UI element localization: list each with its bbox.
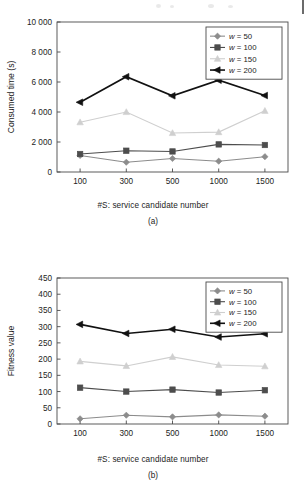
y-axis-tick-label: 2 000 [32, 138, 53, 147]
chart-b-svg: 0501001502002503003504004501003005001000… [0, 258, 306, 454]
data-point-marker [123, 109, 129, 115]
legend-label: w = 150 [229, 308, 257, 317]
y-axis-tick-label: 450 [38, 274, 52, 283]
y-axis-tick-label: 4 000 [32, 108, 53, 117]
chart-a-svg: 02 0004 0006 0008 00010 0001003005001000… [0, 0, 306, 200]
data-point-marker [262, 413, 268, 419]
data-point-marker [170, 149, 175, 154]
data-point-marker [216, 412, 222, 418]
chart-b-x-axis-label: #S: service candidate number [0, 455, 306, 464]
y-axis-label: Consumed time (s) [6, 61, 16, 134]
data-point-marker [169, 326, 176, 333]
y-axis-tick-label: 150 [38, 371, 52, 380]
data-point-marker [122, 330, 129, 337]
data-point-marker [77, 385, 82, 390]
figure-b: 0501001502002503003504004501003005001000… [0, 258, 306, 504]
x-axis-tick-label: 100 [73, 429, 87, 438]
y-axis-tick-label: 200 [38, 355, 52, 364]
chart-a-x-axis-label: #S: service candidate number [0, 201, 306, 210]
data-point-marker [169, 354, 175, 360]
y-axis-tick-label: 8 000 [32, 48, 53, 57]
data-point-marker [123, 412, 129, 418]
data-point-marker [262, 108, 268, 114]
x-axis-tick-label: 100 [73, 177, 87, 186]
data-point-marker [76, 321, 83, 328]
data-point-marker [124, 148, 129, 153]
y-axis-tick-label: 250 [38, 339, 52, 348]
data-point-marker [76, 99, 83, 106]
data-point-marker [262, 388, 267, 393]
legend-label: w = 50 [229, 287, 253, 296]
chart-a-plot-area: 02 0004 0006 0008 00010 0001003005001000… [0, 0, 306, 200]
y-axis-tick-label: 300 [38, 323, 52, 332]
y-axis-tick-label: 0 [47, 420, 52, 429]
figure-b-caption: (b) [0, 471, 306, 480]
y-axis-tick-label: 50 [43, 404, 53, 413]
x-axis-tick-label: 500 [166, 177, 180, 186]
data-point-marker [215, 334, 222, 341]
legend-label: w = 150 [229, 55, 257, 64]
y-axis-label: Fitness value [6, 325, 16, 376]
y-axis-tick-label: 6 000 [32, 78, 53, 87]
x-axis-tick-label: 300 [119, 177, 133, 186]
data-point-marker [123, 159, 129, 165]
data-point-marker [216, 390, 221, 395]
legend-label: w = 100 [229, 43, 257, 52]
legend-label: w = 50 [229, 32, 253, 41]
data-point-marker [124, 389, 129, 394]
y-axis-tick-label: 10 000 [27, 18, 52, 27]
x-axis-tick-label: 1500 [256, 177, 275, 186]
x-axis-tick-label: 1000 [210, 429, 229, 438]
legend-label: w = 100 [229, 298, 257, 307]
data-point-marker [77, 151, 82, 156]
data-point-marker [169, 155, 175, 161]
data-point-marker [169, 414, 175, 420]
y-axis-tick-label: 100 [38, 388, 52, 397]
x-axis-tick-label: 300 [119, 429, 133, 438]
data-point-marker [215, 45, 220, 50]
y-axis-tick-label: 400 [38, 290, 52, 299]
x-axis-tick-label: 1500 [256, 429, 275, 438]
legend-label: w = 200 [229, 66, 257, 75]
x-axis-tick-label: 1000 [210, 177, 229, 186]
data-point-marker [216, 142, 221, 147]
data-point-marker [169, 93, 176, 100]
figure-a: 02 0004 0006 0008 00010 0001003005001000… [0, 0, 306, 260]
chart-b-plot-area: 0501001502002503003504004501003005001000… [0, 258, 306, 454]
data-point-marker [216, 158, 222, 164]
figure-a-caption: (a) [0, 217, 306, 226]
y-axis-tick-label: 350 [38, 306, 52, 315]
legend-label: w = 200 [229, 319, 257, 328]
data-point-marker [215, 299, 220, 304]
data-point-marker [77, 416, 83, 422]
data-point-marker [170, 387, 175, 392]
data-point-marker [262, 154, 268, 160]
data-point-marker [77, 358, 83, 364]
y-axis-tick-label: 0 [47, 168, 52, 177]
x-axis-tick-label: 500 [166, 429, 180, 438]
data-point-marker [261, 92, 268, 99]
series-line [80, 77, 265, 103]
data-point-marker [262, 142, 267, 147]
